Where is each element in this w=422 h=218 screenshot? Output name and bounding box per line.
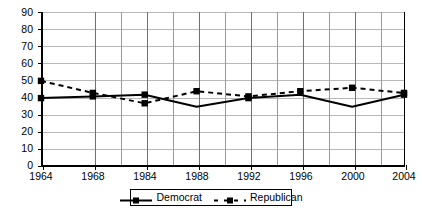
y-tick-label: 20 — [3, 126, 33, 137]
legend-item-democrat: Democrat — [119, 190, 202, 205]
data-point-marker — [297, 88, 303, 94]
x-tick-label: 1992 — [227, 171, 271, 182]
y-tick-label: 30 — [3, 109, 33, 120]
data-point-marker — [349, 85, 355, 91]
y-tick-label: 60 — [3, 58, 33, 69]
legend-item-republican: Republican — [213, 190, 303, 205]
y-tick-label: 40 — [3, 92, 33, 103]
data-point-marker — [38, 78, 44, 84]
data-point-marker — [401, 90, 407, 96]
series-layer — [41, 12, 405, 167]
data-point-marker — [142, 91, 148, 97]
x-tick-label: 1984 — [123, 171, 167, 182]
data-point-marker — [245, 93, 251, 99]
data-point-marker — [90, 90, 96, 96]
data-point-marker — [193, 88, 199, 94]
x-tick-label: 1964 — [19, 171, 63, 182]
x-tick-label: 2000 — [331, 171, 375, 182]
legend-label-republican: Republican — [250, 192, 303, 203]
x-tick-label: 1996 — [279, 171, 323, 182]
data-point-marker — [38, 95, 44, 101]
legend-swatch-solid-line-icon — [119, 192, 153, 203]
data-point-marker — [142, 100, 148, 106]
chart-container: 90 80 70 60 50 40 30 20 10 0 — [0, 0, 422, 218]
legend-swatch-dashed-line-icon — [213, 192, 247, 203]
y-tick-label: 80 — [3, 24, 33, 35]
chart-legend: Democrat Republican — [130, 189, 292, 206]
x-tick-label: 2004 — [382, 171, 422, 182]
y-tick-label: 70 — [3, 41, 33, 52]
legend-label-democrat: Democrat — [156, 192, 202, 203]
y-tick-label: 10 — [3, 143, 33, 154]
x-tick-label: 1968 — [71, 171, 115, 182]
x-tick-label: 1988 — [175, 171, 219, 182]
y-tick-label: 50 — [3, 75, 33, 86]
y-tick-label: 90 — [3, 7, 33, 18]
